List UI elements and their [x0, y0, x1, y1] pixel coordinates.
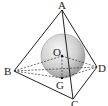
point-o: [61, 55, 63, 57]
tetrahedron-diagram: A B C D O G: [0, 0, 108, 106]
label-g: G: [56, 79, 64, 91]
label-c: C: [71, 98, 78, 106]
label-a: A: [58, 0, 66, 11]
label-b: B: [4, 65, 11, 77]
label-d: D: [98, 62, 106, 74]
label-o: O: [53, 46, 61, 58]
